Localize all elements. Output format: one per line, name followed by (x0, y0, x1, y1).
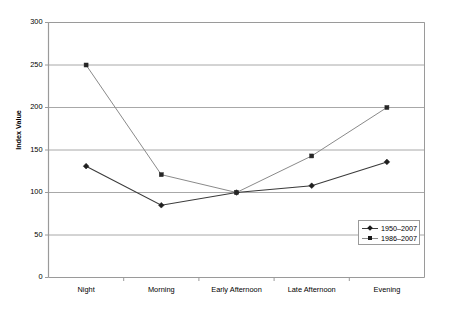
x-axis-tick-label: Night (46, 285, 126, 294)
y-axis-tick-label: 50 (17, 231, 43, 239)
legend-item: 1986–2007 (362, 233, 416, 243)
y-axis-tick-label: 0 (17, 273, 43, 281)
y-axis-tick-label: 200 (17, 103, 43, 111)
plot-area (0, 0, 449, 313)
legend-marker-diamond-icon (362, 224, 378, 233)
line-chart: Index Value 050100150200250300 NightMorn… (0, 0, 449, 313)
legend-marker-square-icon (362, 234, 378, 243)
x-axis-tick-label: Early Afternoon (197, 285, 277, 294)
chart-legend: 1950–2007 1986–2007 (358, 220, 420, 245)
legend-item-label: 1986–2007 (378, 234, 417, 243)
y-axis-tick-label: 150 (17, 146, 43, 154)
legend-item-label: 1950–2007 (378, 224, 417, 233)
y-axis-tick-label: 100 (17, 188, 43, 196)
y-axis-tick-label: 300 (17, 18, 43, 26)
x-axis-tick-label: Late Afternoon (272, 285, 352, 294)
legend-item: 1950–2007 (362, 223, 416, 233)
y-axis-tick-label: 250 (17, 61, 43, 69)
x-axis-tick-label: Morning (121, 285, 201, 294)
x-axis-tick-label: Evening (347, 285, 427, 294)
